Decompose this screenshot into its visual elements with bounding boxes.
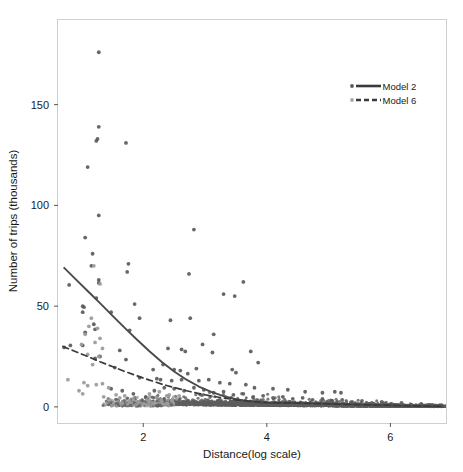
data-point xyxy=(97,355,101,359)
data-point xyxy=(123,394,127,398)
y-tick-label: 0 xyxy=(43,401,49,413)
data-point xyxy=(253,386,257,390)
scatter-plot: 246 050100150 Distance(log scale) Number… xyxy=(0,0,463,472)
data-point xyxy=(120,389,124,393)
data-point xyxy=(249,350,253,354)
data-point xyxy=(234,371,238,375)
data-point xyxy=(256,361,260,365)
data-point xyxy=(360,399,364,403)
data-point xyxy=(301,396,305,400)
data-point xyxy=(114,393,118,397)
x-tick-label: 4 xyxy=(264,431,270,443)
data-point xyxy=(86,165,90,169)
data-point xyxy=(66,378,70,382)
data-point xyxy=(159,378,163,382)
x-tick-label: 2 xyxy=(140,431,146,443)
data-point xyxy=(125,397,128,400)
data-point xyxy=(228,382,232,386)
data-point xyxy=(82,381,86,385)
data-point xyxy=(124,141,128,145)
data-point xyxy=(107,386,111,390)
data-point xyxy=(271,387,275,391)
data-point xyxy=(82,305,86,309)
data-point xyxy=(92,264,96,268)
data-point xyxy=(127,262,131,266)
data-point xyxy=(67,283,71,287)
data-point xyxy=(151,368,155,372)
data-point xyxy=(303,390,307,394)
data-point xyxy=(241,392,245,396)
data-point xyxy=(77,389,81,393)
data-point xyxy=(136,396,139,399)
data-point xyxy=(192,228,196,232)
data-point xyxy=(201,343,205,347)
data-point xyxy=(157,404,160,407)
data-point xyxy=(172,395,175,398)
data-point xyxy=(157,390,161,394)
data-point xyxy=(83,332,87,336)
data-point xyxy=(87,324,91,328)
data-point xyxy=(232,393,236,397)
y-tick-label: 150 xyxy=(31,99,49,111)
data-point xyxy=(145,398,149,402)
data-point xyxy=(156,399,159,402)
data-point xyxy=(277,395,280,398)
data-point xyxy=(311,398,315,402)
data-point xyxy=(98,282,102,286)
data-point xyxy=(167,404,170,407)
data-point xyxy=(116,400,119,403)
data-point xyxy=(278,398,281,401)
data-point xyxy=(136,400,140,404)
data-point xyxy=(68,344,72,348)
data-point xyxy=(400,401,404,405)
data-point xyxy=(119,402,123,406)
data-point xyxy=(266,393,269,396)
data-point xyxy=(124,358,128,362)
data-point xyxy=(102,404,105,407)
data-point xyxy=(94,383,98,387)
data-point xyxy=(230,368,234,372)
data-point xyxy=(83,236,87,240)
x-axis-title: Distance(log scale) xyxy=(203,448,301,460)
data-point xyxy=(169,318,173,322)
data-point xyxy=(101,347,105,351)
data-point xyxy=(138,316,142,320)
legend-label-model-6: Model 6 xyxy=(383,95,417,106)
x-tick-label: 6 xyxy=(387,431,393,443)
data-point xyxy=(196,397,199,400)
data-point xyxy=(123,399,126,402)
data-point xyxy=(81,392,85,396)
data-point xyxy=(186,372,190,376)
data-point xyxy=(133,302,137,306)
data-point xyxy=(339,391,343,395)
data-point xyxy=(81,310,85,314)
y-axis-title: Number of trips (thousands) xyxy=(7,150,19,293)
data-point xyxy=(97,125,101,129)
data-point xyxy=(91,363,95,367)
legend-marker-icon xyxy=(350,84,354,88)
data-point xyxy=(92,322,96,326)
data-point xyxy=(211,351,215,355)
data-point xyxy=(91,252,95,256)
data-point xyxy=(212,332,216,336)
data-point xyxy=(93,341,97,345)
data-point xyxy=(86,384,90,388)
data-point xyxy=(380,400,384,404)
data-point xyxy=(350,400,354,404)
data-point xyxy=(96,326,100,330)
data-point xyxy=(175,397,179,401)
data-point xyxy=(271,396,275,400)
data-point xyxy=(141,402,145,406)
legend-marker-icon xyxy=(350,98,354,102)
data-point xyxy=(180,348,184,352)
data-point xyxy=(162,386,166,390)
data-point xyxy=(188,316,192,320)
data-point xyxy=(98,336,102,340)
data-point xyxy=(167,393,171,397)
data-point xyxy=(251,395,255,399)
data-point xyxy=(345,400,348,403)
data-point xyxy=(233,294,237,298)
data-point xyxy=(101,382,105,386)
data-point xyxy=(178,369,182,373)
data-point xyxy=(97,50,101,54)
